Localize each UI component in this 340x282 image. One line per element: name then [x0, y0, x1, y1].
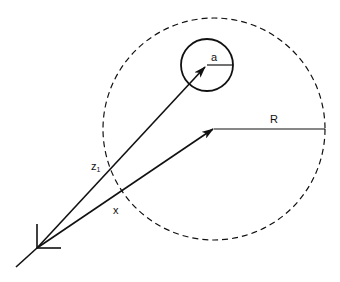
vector-z1-label: z1: [91, 160, 101, 173]
geometry-diagram: a R z1 x: [0, 0, 340, 282]
vector-z1-arrow: [37, 67, 205, 248]
vector-x-arrow: [37, 129, 213, 248]
large-radius-label: R: [270, 113, 278, 125]
vector-x-label: x: [113, 204, 119, 216]
small-radius-label: a: [211, 51, 218, 63]
